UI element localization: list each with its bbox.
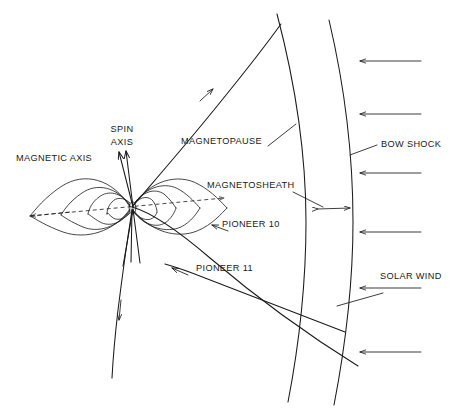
field-lobe-outer-left: [30, 179, 130, 216]
label-pioneer-11: PIONEER 11: [196, 263, 253, 273]
boundary-curves: [277, 14, 353, 405]
label-spin-axis-line2: AXIS: [111, 137, 133, 147]
diagram-canvas: SPIN AXIS MAGNETIC AXIS MAGNETOPAUSE BOW…: [0, 0, 461, 409]
leader-lines: [268, 124, 383, 306]
magnetosphere-diagram: SPIN AXIS MAGNETIC AXIS MAGNETOPAUSE BOW…: [0, 0, 461, 409]
spin-axis-arrow: [126, 151, 133, 207]
label-bow-shock: BOW SHOCK: [381, 139, 442, 149]
magnetopause-curve: [277, 14, 306, 402]
label-spin-axis-line1: SPIN: [111, 124, 134, 134]
label-magnetic-axis: MAGNETIC AXIS: [16, 153, 92, 163]
pioneer-10-arrowhead-outbound: [200, 89, 213, 101]
bow-shock-leader: [350, 145, 377, 155]
magnetosheath-span-arrow: [318, 208, 350, 209]
solar-wind-arrows: [360, 61, 421, 352]
field-lobe-inner-left: [88, 193, 130, 214]
field-lobe-inner-right: [134, 191, 176, 208]
bow-shock-curve: [329, 20, 353, 405]
label-magnetopause: MAGNETOPAUSE: [181, 136, 262, 146]
field-lobe-outer-left-lower: [30, 209, 130, 235]
text-labels: SPIN AXIS MAGNETIC AXIS MAGNETOPAUSE BOW…: [16, 124, 442, 281]
field-lobe-mid-left: [61, 187, 130, 215]
field-lobe-mid-right: [133, 186, 200, 208]
magnetopause-leader: [268, 124, 296, 146]
pioneer-11-trajectory: [112, 210, 345, 378]
magnetosheath-leader: [293, 192, 323, 207]
label-magnetosheath: MAGNETOSHEATH: [207, 180, 294, 190]
field-lobe-core-right: [135, 197, 157, 212]
solar-wind-leader: [337, 293, 383, 306]
field-lobe-mid-left-lower: [61, 210, 130, 229]
magnetic-equator-line-left-tip: [31, 212, 70, 216]
label-pioneer-10: PIONEER 10: [222, 219, 280, 229]
field-lobe-core-left: [107, 198, 130, 214]
magnetosheath-double-arrow: [318, 208, 350, 209]
pioneer-10-trajectory: [132, 24, 358, 366]
label-solar-wind: SOLAR WIND: [380, 271, 442, 281]
pioneer-11-outbound-leg: [112, 210, 132, 378]
field-lobe-outer-right-lower: [133, 208, 227, 234]
field-lobe-inner-right-lower: [134, 208, 176, 225]
